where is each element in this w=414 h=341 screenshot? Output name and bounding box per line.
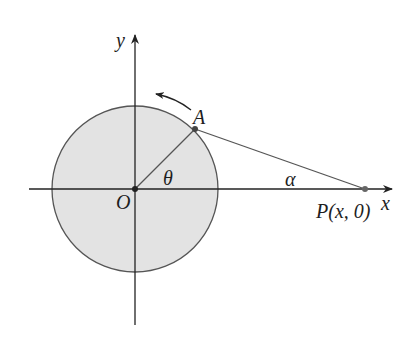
- crank-diagram: y x O A θ α P(x, 0): [0, 0, 414, 341]
- point-origin: [132, 186, 138, 192]
- point-p: [362, 186, 368, 192]
- point-p-letter: P: [315, 200, 328, 222]
- rotation-arrow-icon: [156, 94, 191, 110]
- point-a-label: A: [191, 106, 206, 128]
- alpha-label: α: [285, 168, 296, 190]
- y-axis-label: y: [114, 29, 125, 52]
- x-axis-label: x: [380, 192, 390, 214]
- origin-label: O: [116, 191, 130, 213]
- point-p-coords: (x, 0): [328, 200, 371, 223]
- segment-ap: [195, 129, 365, 189]
- theta-label: θ: [163, 167, 173, 189]
- point-p-label: P(x, 0): [315, 200, 371, 223]
